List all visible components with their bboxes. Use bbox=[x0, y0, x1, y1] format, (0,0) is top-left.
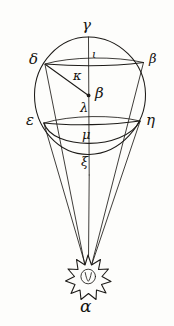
ray-delta-to-alpha bbox=[45, 65, 86, 272]
label-beta-right: β bbox=[149, 52, 157, 65]
center-point-dot bbox=[87, 94, 91, 98]
label-eta: η bbox=[146, 113, 155, 128]
label-epsilon: ε bbox=[26, 113, 34, 128]
upper-chord-line bbox=[45, 63, 144, 66]
lower-band-back-arc bbox=[44, 117, 140, 123]
label-gamma: γ bbox=[82, 18, 91, 33]
label-iota: ι bbox=[92, 49, 96, 60]
label-beta-center: β bbox=[95, 86, 104, 101]
ray-eta-to-alpha bbox=[90, 122, 140, 272]
label-kappa: κ bbox=[73, 69, 82, 82]
label-xi: ξ bbox=[81, 155, 88, 168]
label-alpha: α bbox=[80, 298, 91, 315]
label-delta: δ bbox=[29, 52, 38, 67]
lower-chord-line bbox=[44, 121, 140, 125]
ray-epsilon-to-alpha bbox=[44, 123, 87, 271]
star-burst-shape bbox=[66, 255, 112, 300]
label-lambda: λ bbox=[80, 101, 88, 114]
astronomical-diagram: γ δ β ι κ β λ ε η μ ξ α bbox=[0, 0, 174, 326]
label-mu: μ bbox=[82, 128, 90, 141]
radius-delta-beta-line bbox=[46, 65, 89, 96]
